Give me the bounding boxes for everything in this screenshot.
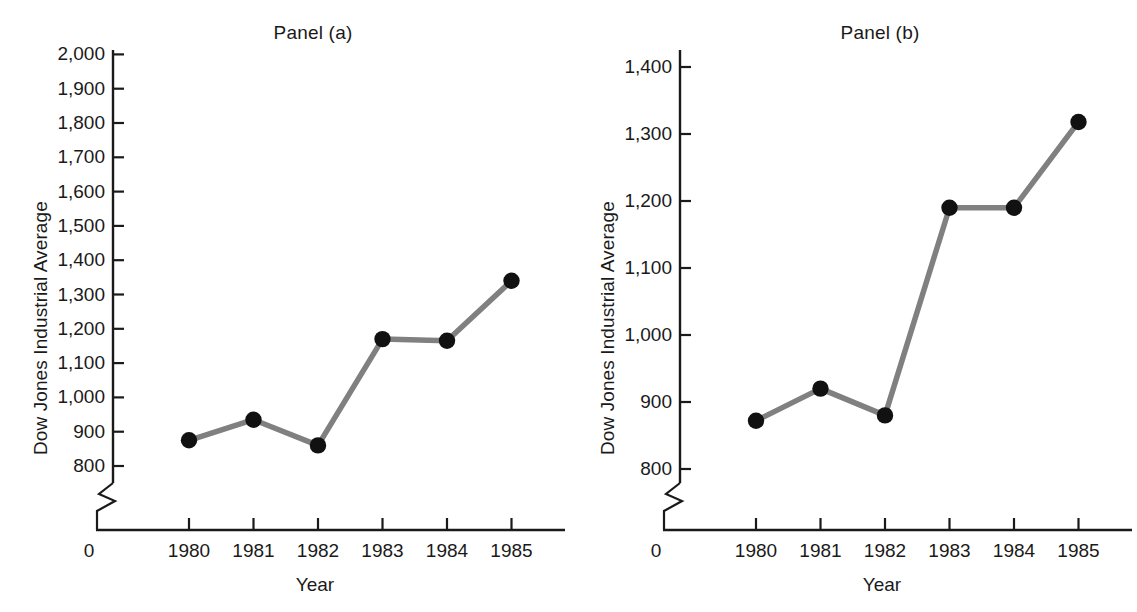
figure-two-panel-line-charts: Panel (a) Dow Jones Industrial Average Y… xyxy=(0,0,1137,612)
data-point-marker xyxy=(310,437,326,453)
y-tick-label: 1,400 xyxy=(624,56,672,78)
y-tick-label: 1,200 xyxy=(57,318,105,340)
x-tick-label: 1983 xyxy=(361,540,403,562)
y-tick-label: 1,900 xyxy=(57,78,105,100)
y-tick-label: 1,500 xyxy=(57,215,105,237)
data-line-series xyxy=(756,122,1079,421)
y-tick-label: 1,000 xyxy=(57,386,105,408)
data-point-marker xyxy=(941,200,957,216)
y-tick-label: 1,300 xyxy=(57,284,105,306)
y-axis-break-symbol xyxy=(664,483,682,530)
data-line-series xyxy=(189,281,512,446)
y-tick-label: 1,200 xyxy=(624,190,672,212)
x-tick-label: 1985 xyxy=(490,540,532,562)
x-tick-label: 1980 xyxy=(168,540,210,562)
x-tick-label: 1985 xyxy=(1057,540,1099,562)
data-point-marker xyxy=(181,432,197,448)
x-tick-label: 1982 xyxy=(864,540,906,562)
panel-a-origin-label: 0 xyxy=(84,540,95,562)
panel-b-origin-label: 0 xyxy=(651,540,662,562)
x-tick-label: 1984 xyxy=(426,540,468,562)
y-tick-label: 900 xyxy=(640,391,672,413)
panel-b-plot-area xyxy=(567,0,1137,612)
y-tick-label: 1,600 xyxy=(57,181,105,203)
data-point-marker xyxy=(503,273,519,289)
y-axis-break-symbol xyxy=(97,483,115,530)
y-tick-label: 800 xyxy=(640,458,672,480)
data-point-marker xyxy=(877,407,893,423)
panel-b: Panel (b) Dow Jones Industrial Average Y… xyxy=(567,0,1137,612)
x-tick-label: 1981 xyxy=(232,540,274,562)
y-tick-label: 1,000 xyxy=(624,324,672,346)
y-tick-label: 1,300 xyxy=(624,123,672,145)
data-point-marker xyxy=(374,331,390,347)
data-point-marker xyxy=(1070,114,1086,130)
data-point-marker xyxy=(245,411,261,427)
x-tick-label: 1982 xyxy=(297,540,339,562)
y-tick-label: 1,400 xyxy=(57,249,105,271)
data-point-marker xyxy=(439,333,455,349)
y-tick-label: 1,100 xyxy=(624,257,672,279)
y-tick-label: 900 xyxy=(73,421,105,443)
data-point-marker xyxy=(748,413,764,429)
y-tick-label: 2,000 xyxy=(57,43,105,65)
y-tick-label: 1,100 xyxy=(57,352,105,374)
y-tick-label: 1,700 xyxy=(57,146,105,168)
data-point-marker xyxy=(1006,200,1022,216)
data-point-marker xyxy=(812,380,828,396)
y-tick-label: 1,800 xyxy=(57,112,105,134)
x-tick-label: 1980 xyxy=(735,540,777,562)
x-tick-label: 1983 xyxy=(928,540,970,562)
y-tick-label: 800 xyxy=(73,455,105,477)
panel-a: Panel (a) Dow Jones Industrial Average Y… xyxy=(0,0,570,612)
x-tick-label: 1984 xyxy=(993,540,1035,562)
x-tick-label: 1981 xyxy=(799,540,841,562)
